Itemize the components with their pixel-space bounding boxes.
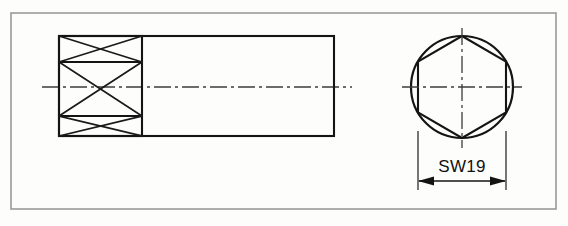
body-outline xyxy=(59,36,334,136)
technical-drawing-svg: SW19 xyxy=(0,0,568,226)
dimension-arrow-right-icon xyxy=(490,177,506,186)
across-flats-dimension: SW19 xyxy=(418,131,506,190)
hatched-section-outline xyxy=(59,36,142,136)
technical-drawing-canvas: SW19 xyxy=(0,0,568,226)
end-view xyxy=(402,28,522,148)
hatch-cell-middle xyxy=(59,62,142,116)
hatch-cell-bottom xyxy=(59,116,142,136)
hatch-cell-top xyxy=(59,36,142,62)
dimension-arrow-left-icon xyxy=(418,177,434,186)
side-elevation-view xyxy=(42,36,352,136)
dimension-label: SW19 xyxy=(438,157,486,176)
